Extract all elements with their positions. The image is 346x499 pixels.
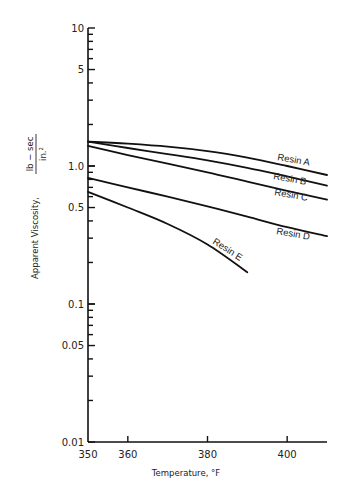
y-tick-label: 1.0 [68, 161, 84, 172]
tick-marks [88, 28, 287, 442]
y-tick-label: 0.1 [68, 299, 84, 310]
y-axis-title: Apparent Viscosity, lb − sec in.² [25, 134, 48, 279]
x-axis-title: Temperature, °F [151, 468, 220, 478]
x-tick-label: 380 [198, 449, 217, 460]
tick-labels: 0.010.050.10.51.0510350360380400 [62, 23, 297, 461]
y-axis-unit-denominator: in.² [38, 147, 48, 161]
x-tick-label: 360 [118, 449, 137, 460]
y-tick-label: 5 [78, 64, 84, 75]
y-axis-title-text: Apparent Viscosity, [30, 197, 40, 279]
label-resin-d: Resin D [276, 225, 311, 242]
y-tick-label: 0.01 [62, 437, 84, 448]
x-tick-label: 400 [278, 449, 297, 460]
viscosity-chart: 0.010.050.10.51.0510350360380400 Resin A… [0, 0, 346, 499]
y-tick-label: 0.05 [62, 340, 84, 351]
label-resin-c: Resin C [274, 186, 309, 203]
label-resin-b: Resin B [273, 170, 308, 187]
y-axis-unit-numerator: lb − sec [25, 136, 35, 171]
y-tick-label: 10 [71, 23, 84, 34]
x-tick-label: 350 [78, 449, 97, 460]
curve-resin-e [88, 192, 247, 272]
y-tick-label: 0.5 [68, 202, 84, 213]
